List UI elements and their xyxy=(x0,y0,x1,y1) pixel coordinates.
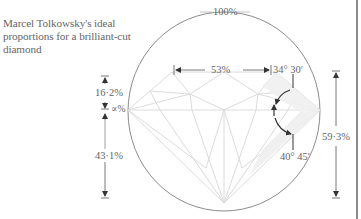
diameter-label: 100% xyxy=(213,6,238,17)
facet-shading xyxy=(262,72,320,112)
total-depth-label: 59·3% xyxy=(322,131,350,142)
crown-height-label: 16·2% xyxy=(95,87,123,98)
diamond-diagram xyxy=(0,0,361,219)
pavilion-angle-label: 40° 45′ xyxy=(280,151,310,162)
pavilion-depth-label: 43·1% xyxy=(95,150,123,161)
girdle-label: ∝% xyxy=(111,104,125,115)
facet-shading xyxy=(250,110,320,175)
page-edge-rule xyxy=(356,0,358,219)
crown-angle-label: 34° 30′ xyxy=(273,64,303,75)
table-label: 53% xyxy=(211,64,230,75)
